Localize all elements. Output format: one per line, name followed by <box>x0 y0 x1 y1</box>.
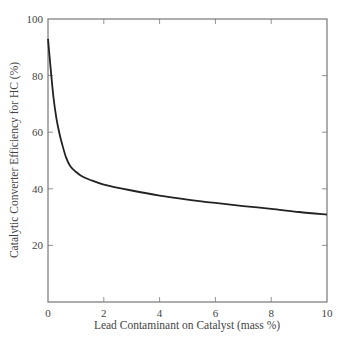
y-tick-label: 60 <box>32 126 44 138</box>
axis-ticks <box>48 19 327 302</box>
y-tick-label: 80 <box>32 70 44 82</box>
x-axis-label: Lead Contaminant on Catalyst (mass %) <box>94 319 280 332</box>
y-axis-label: Catalytic Converter Efficiency for HC (%… <box>8 62 21 258</box>
x-tick-labels: 0246810 <box>45 307 333 319</box>
x-tick-label: 2 <box>101 307 107 319</box>
x-tick-label: 10 <box>322 307 334 319</box>
efficiency-curve <box>48 39 327 215</box>
plot-frame <box>48 19 327 302</box>
x-tick-label: 6 <box>213 307 219 319</box>
y-tick-label: 40 <box>32 183 44 195</box>
chart: 0246810 20406080100 Lead Contaminant on … <box>0 0 344 345</box>
y-tick-label: 100 <box>27 13 44 25</box>
x-tick-label: 8 <box>268 307 274 319</box>
plot-border <box>48 19 327 302</box>
y-tick-label: 20 <box>32 239 44 251</box>
x-tick-label: 4 <box>157 307 163 319</box>
y-tick-labels: 20406080100 <box>27 13 44 251</box>
x-tick-label: 0 <box>45 307 51 319</box>
